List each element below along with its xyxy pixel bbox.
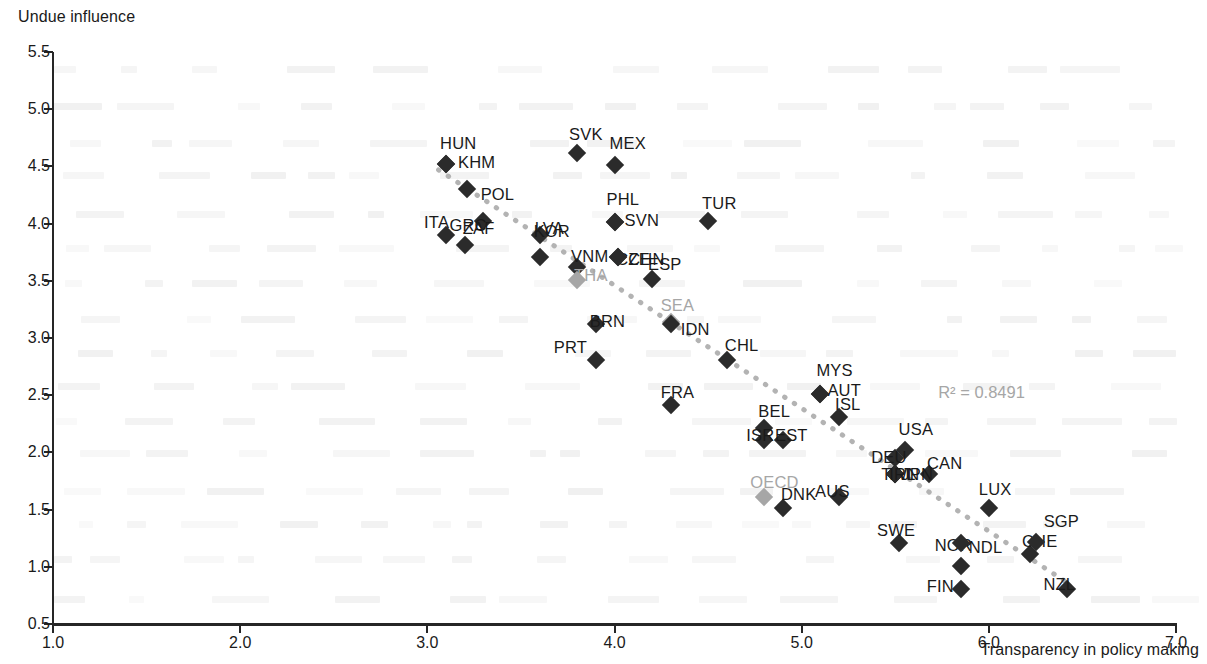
data-point-label: SGP [1044,512,1079,531]
scatter-chart: Undue influence Transparency in policy m… [0,0,1207,664]
data-point-label: KHM [458,153,495,172]
data-point-label: ISR [746,426,774,445]
data-point-label: MEX [610,134,646,153]
data-point-label: PRT [554,338,587,357]
data-point-label: DNK [781,485,816,504]
data-point-label: SVN [625,211,660,230]
data-point-label: LUX [979,480,1012,499]
data-point-label: SVK [569,125,603,144]
data-point-label: BRN [590,312,625,331]
data-point-label: HUN [440,134,476,153]
data-point-label: MYS [816,361,852,380]
data-point-label: BEL [758,402,790,421]
data-point-label: VNM [571,247,608,266]
data-point-label: USA [899,420,934,439]
data-point-label: ITA [424,213,449,232]
data-point-label: ISL [835,395,860,414]
data-point-label: THA [574,266,608,285]
data-point-label: EST [775,426,808,445]
data-point-label: CHL [725,336,759,355]
data-point-label: FRA [661,383,695,402]
data-point-label: KOR [534,222,570,241]
data-point-label: POL [481,185,515,204]
trendline [0,0,1207,664]
data-point-label: AUS [815,482,850,501]
data-point-label: NZL [1043,575,1075,594]
data-point-label: SWE [877,521,915,540]
data-point-label: IDN [681,320,710,339]
data-point-label: ZAF [463,219,495,238]
data-point-label: ESP [648,255,682,274]
data-point-label: SEA [661,296,695,315]
data-point-label: IRL [889,465,915,484]
data-point-label: FIN [927,577,954,596]
data-point-label: TUR [702,194,737,213]
data-point-label: PHL [607,190,640,209]
data-point-label: NDL [969,538,1003,557]
r-squared-annotation: R² = 0.8491 [938,383,1025,402]
